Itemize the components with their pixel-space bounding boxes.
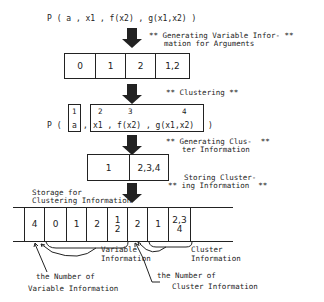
cluster-info-label-line1: Cluster: [191, 246, 223, 254]
variable-info-label-line1: Variable: [101, 246, 137, 254]
num-variable-info-line2: Variable Information: [28, 285, 118, 293]
num-variable-info-line1: the Number of: [36, 273, 95, 281]
connector-lines: [0, 0, 324, 302]
num-cluster-info-line2: Cluster Information: [172, 283, 258, 291]
num-cluster-info-line1: the Number of: [157, 272, 216, 280]
cluster-info-label-line2: Information: [191, 255, 241, 263]
variable-info-label-line2: Information: [101, 255, 151, 263]
